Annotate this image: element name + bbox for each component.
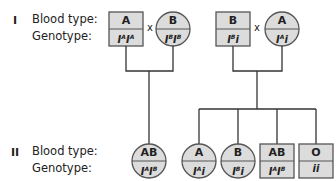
blood-type: A (109, 13, 143, 29)
individual-I-3-male: B IBi (216, 12, 250, 46)
genotype: IBi (221, 161, 255, 180)
individual-II-1-female: AB IAIB (132, 144, 166, 178)
individual-I-1-male: A IAIA (109, 12, 143, 46)
cross-symbol: x (254, 22, 260, 33)
blood-type: B (221, 145, 255, 161)
blood-type: B (156, 13, 190, 29)
genotype: IAi (182, 161, 216, 180)
blood-type: AB (260, 145, 294, 161)
genotype: IAIB (260, 161, 294, 180)
individual-II-3-female: B IBi (221, 144, 255, 178)
blood-type: O (299, 145, 333, 161)
cross-symbol: x (147, 22, 153, 33)
blood-type: AB (132, 145, 166, 161)
genotype: IAi (265, 29, 299, 48)
genotype: IBIB (156, 29, 190, 48)
individual-II-2-female: A IAi (182, 144, 216, 178)
genotype: IBi (216, 29, 250, 48)
blood-type: A (182, 145, 216, 161)
genotype: ii (299, 161, 333, 177)
genotype: IAIA (109, 29, 143, 48)
individual-II-4-male: AB IAIB (260, 144, 294, 178)
individual-I-4-female: A IAi (265, 12, 299, 46)
individual-II-5-male: O ii (299, 144, 333, 178)
blood-type: A (265, 13, 299, 29)
genotype: IAIB (132, 161, 166, 180)
individual-I-2-female: B IBIB (156, 12, 190, 46)
blood-type: B (216, 13, 250, 29)
